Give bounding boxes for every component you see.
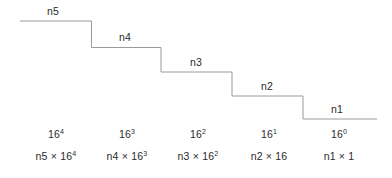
step-label-n5: n5 (13, 5, 93, 17)
product-exponent: 3 (143, 150, 147, 157)
step-label-n4: n4 (85, 31, 165, 43)
product-expression: n2 × 16 (251, 150, 288, 162)
power-base: 16 (48, 128, 60, 140)
power-base: 16 (119, 128, 131, 140)
product-label-n1: n1 × 1 (294, 150, 384, 162)
power-label-16-1: 161 (229, 128, 309, 140)
power-label-16-4: 164 (16, 128, 96, 140)
power-exponent: 0 (343, 128, 347, 135)
power-base: 16 (190, 128, 202, 140)
power-exponent: 2 (202, 128, 206, 135)
diagram-canvas: n5 n4 n3 n2 n1 164 163 162 161 160 n5 × … (0, 0, 392, 178)
step-label-n3: n3 (156, 56, 236, 68)
product-exponent: 2 (214, 150, 218, 157)
product-expression: n3 × 16 (178, 150, 215, 162)
power-base: 16 (331, 128, 343, 140)
power-label-16-3: 163 (87, 128, 167, 140)
power-exponent: 4 (60, 128, 64, 135)
product-expression: n1 × 1 (324, 150, 355, 162)
power-base: 16 (261, 128, 273, 140)
power-exponent: 3 (131, 128, 135, 135)
step-label-n1: n1 (297, 103, 377, 115)
product-exponent: 4 (72, 150, 76, 157)
product-expression: n4 × 16 (107, 150, 144, 162)
power-exponent: 1 (273, 128, 277, 135)
step-label-n2: n2 (227, 80, 307, 92)
power-label-16-0: 160 (299, 128, 379, 140)
product-expression: n5 × 16 (36, 150, 73, 162)
power-label-16-2: 162 (158, 128, 238, 140)
